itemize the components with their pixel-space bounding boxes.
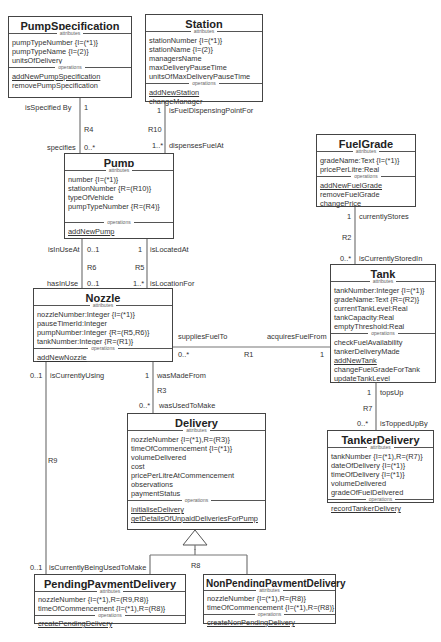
role-label: dispensesFuelAt: [169, 141, 224, 150]
multiplicity-label: 0..1: [87, 279, 99, 288]
multiplicity-label: 1: [145, 371, 149, 380]
class-delivery: Delivery attributes nozzleNumber {I=(*1)…: [127, 413, 266, 530]
attributes-section: attributes pumpTypeNumber {I=(*1)} pumpT…: [9, 33, 131, 67]
multiplicity-label: 1: [138, 245, 142, 254]
attributes-section: attributes number {I=(*1)} stationNumber…: [65, 170, 173, 222]
attribute: gradeName:Text {I=(*1)}: [320, 156, 412, 165]
operations-section: operations addNewPumpSpecification remov…: [9, 67, 131, 92]
operation: changeFuelGradeForTank: [334, 365, 432, 374]
attribute: dateOfDelivery {I=(*1)}: [331, 461, 430, 470]
class-tank: Tank attributes tankNumber:Integer {I=(*…: [330, 264, 436, 383]
attributes-section: attributes tankNumber:Integer {I=(*1)} g…: [331, 281, 435, 333]
role-label: isCurrentlyBeingUsedToMake: [49, 563, 146, 572]
role-label: wasUsedToMake: [159, 401, 215, 410]
attribute: cost: [131, 462, 262, 471]
operations-caption: operations: [95, 612, 124, 618]
relationship-id: R2: [342, 233, 351, 242]
role-label: isCurrentlyStoredIn: [359, 254, 422, 263]
operations-caption: operations: [255, 611, 284, 617]
attribute: observations: [131, 480, 262, 489]
attribute: stationNumber {R=(R10)}: [68, 184, 170, 193]
class-pump: Pump attributes number {I=(*1)} stationN…: [64, 153, 174, 239]
role-label: suppliesFuelTo: [178, 332, 227, 341]
attributes-caption: attributes: [97, 588, 124, 594]
multiplicity-label: 0..1: [30, 563, 42, 572]
operation: createPendingDelivery: [38, 619, 182, 628]
attribute: nozzleNumber {I=(*1),R=(R9,R8)}: [38, 595, 182, 604]
generalization-triangle: [183, 530, 207, 545]
attributes-caption: attributes: [353, 148, 380, 154]
class-fuel-grade: FuelGrade attributes gradeName:Text {I=(…: [316, 134, 416, 207]
multiplicity-label: 0..*: [340, 254, 351, 263]
operation: recordTankerDelivery: [331, 504, 430, 513]
attribute: pumpTypeNumber {R=(R4)}: [68, 202, 170, 211]
role-label: isCurrentlyUsing: [50, 371, 104, 380]
attribute: nozzleNumber {I=(*1),R=(R8)}: [207, 594, 332, 603]
operation: addNewPump: [68, 227, 170, 236]
attribute: gradeName:Text {R=(R2)}: [334, 295, 432, 304]
role-label: currentlyStores: [359, 212, 409, 221]
operation: changeManager: [149, 97, 259, 106]
attribute: stationName {I=(2)}: [149, 45, 259, 54]
attribute: stationNumber {I=(*1)}: [149, 36, 259, 45]
multiplicity-label: 0..*: [357, 419, 368, 428]
operations-section: operations recordTankerDelivery: [328, 499, 433, 515]
relationship-id: R7: [363, 404, 372, 413]
role-label: hasInUse: [47, 279, 78, 288]
multiplicity-label: 1: [320, 350, 324, 359]
attributes-caption: attributes: [90, 302, 117, 308]
attribute: pricePerLitreAtCommencement: [131, 471, 262, 480]
multiplicity-label: 1..*: [133, 279, 144, 288]
attribute: tankCapacity:Real: [334, 313, 432, 322]
attributes-section: attributes nozzleNumber {I=(*1),R=(R3)} …: [128, 430, 265, 500]
operation: getDetailsOfUnpaidDeliveriesForPump: [131, 514, 262, 523]
attributes-caption: attributes: [370, 278, 397, 284]
multiplicity-label: 0..1: [30, 371, 42, 380]
attributes-caption: attributes: [106, 167, 133, 173]
role-label: isSpecified By: [25, 103, 71, 112]
role-label: wasMadeFrom: [157, 371, 206, 380]
operations-section: operations createPendingDelivery: [35, 615, 185, 630]
attribute: maxDeliveryPauseTime: [149, 63, 259, 72]
relationship-id: R10: [148, 125, 162, 134]
class-tanker-delivery: TankerDelivery attributes tankNumber {I=…: [327, 430, 434, 503]
operations-caption: operations: [189, 80, 218, 86]
attribute: number {I=(*1)}: [68, 175, 170, 184]
role-label: isToppedUpBy: [380, 419, 428, 428]
attribute: timeOfDelivery {I=(*1)}: [331, 470, 430, 479]
attributes-caption: attributes: [367, 444, 394, 450]
relationship-id: R1: [244, 350, 253, 359]
class-station: Station attributes stationNumber {I=(*1)…: [145, 14, 263, 102]
relationship-id: R5: [135, 263, 144, 272]
operation: removeFuelGrade: [320, 190, 412, 199]
operations-caption: operations: [368, 330, 397, 336]
attributes-section: attributes nozzleNumber:Integer {I=(*1)}…: [34, 305, 172, 348]
operation: addNewTank: [334, 356, 432, 365]
operations-caption: operations: [104, 219, 133, 225]
multiplicity-label: 0..1: [87, 245, 99, 254]
class-pending-payment-delivery: PendingPaymentDelivery attributes nozzle…: [34, 574, 186, 624]
operation: checkFuelAvailability: [334, 338, 432, 347]
operation: initialiseDelivery: [131, 505, 262, 514]
operations-section: operations createNonPendingDelivery: [204, 614, 335, 629]
attribute: nozzleNumber:Integer {I=(*1)}: [37, 310, 169, 319]
attributes-section: attributes tankNumber {I=(*1),R=(R7)} da…: [328, 447, 433, 499]
attributes-caption: attributes: [183, 427, 210, 433]
operations-caption: operations: [366, 496, 395, 502]
operations-section: operations addNewStation changeManager: [146, 83, 262, 108]
attribute: timeOfCommencement {I=(*1)}: [131, 444, 262, 453]
multiplicity-label: 1..*: [152, 141, 163, 150]
class-pump-specification: PumpSpecification attributes pumpTypeNum…: [8, 16, 132, 98]
operation: updateTankLevel: [334, 374, 432, 383]
multiplicity-label: 1: [84, 103, 88, 112]
role-label: isFuelDispensingPointFor: [169, 106, 253, 115]
role-label: topsUp: [380, 388, 403, 397]
relationship-id: R3: [157, 386, 166, 395]
multiplicity-label: 0..*: [139, 401, 150, 410]
relationship-id: R8: [191, 561, 200, 570]
attributes-caption: attributes: [191, 28, 218, 34]
multiplicity-label: 0..*: [84, 143, 95, 152]
operation: addNewStation: [149, 88, 259, 97]
multiplicity-label: 0..*: [178, 350, 189, 359]
operation: tankerDeliveryMade: [334, 347, 432, 356]
